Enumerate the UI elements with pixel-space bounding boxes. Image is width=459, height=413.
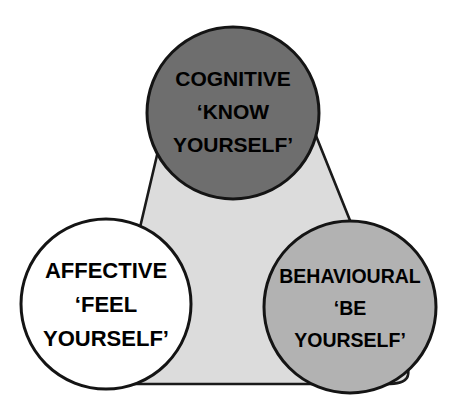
cognitive-label-line3: YOURSELF’ [173, 133, 293, 156]
behavioural-label-line2: ‘BE [334, 297, 367, 319]
affective-label-line1: AFFECTIVE [45, 258, 167, 283]
cognitive-label-line2: ‘KNOW [197, 100, 270, 123]
node-cognitive: COGNITIVE ‘KNOW YOURSELF’ [147, 27, 319, 199]
cognitive-label-line1: COGNITIVE [175, 67, 291, 90]
diagram-canvas: COGNITIVE ‘KNOW YOURSELF’ AFFECTIVE ‘FEE… [0, 0, 459, 413]
behavioural-label-line3: YOURSELF’ [294, 329, 406, 351]
node-behavioural: BEHAVIOURAL ‘BE YOURSELF’ [264, 221, 436, 393]
behavioural-label-line1: BEHAVIOURAL [279, 265, 421, 287]
affective-label-line3: YOURSELF’ [43, 326, 169, 351]
self-awareness-diagram: COGNITIVE ‘KNOW YOURSELF’ AFFECTIVE ‘FEE… [0, 0, 459, 413]
node-affective: AFFECTIVE ‘FEEL YOURSELF’ [21, 219, 191, 389]
affective-label-line2: ‘FEEL [75, 292, 137, 317]
